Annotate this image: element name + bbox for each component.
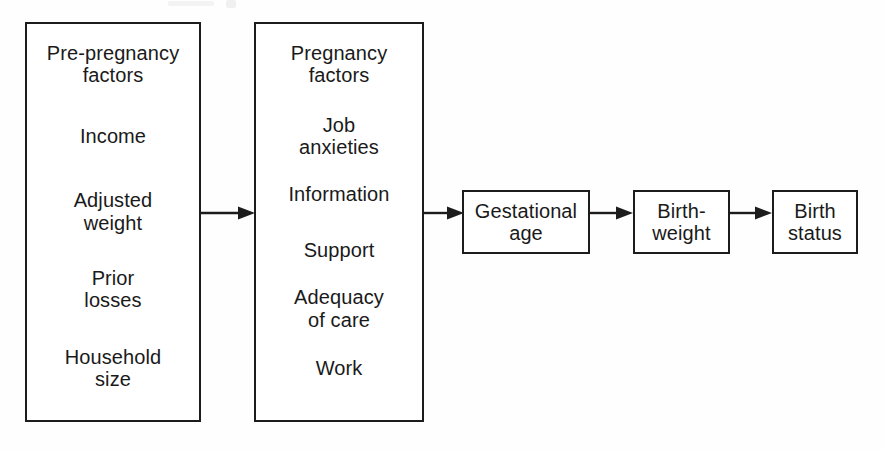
- node-gestational-age[interactable]: Gestational age: [462, 190, 590, 254]
- node-pre-pregnancy-factors[interactable]: Pre-pregnancy factors Income Adjusted we…: [25, 22, 201, 422]
- node-label-gestational-age: Gestational age: [475, 200, 577, 245]
- node-label-birth-status: Birth status: [788, 200, 842, 245]
- node-entry-job-anxieties: Job anxieties: [256, 114, 422, 159]
- arrow-birth-weight-to-birth-status: [730, 205, 773, 221]
- node-entry-prior-losses: Prior losses: [27, 267, 199, 312]
- diagram-canvas: Pre-pregnancy factors Income Adjusted we…: [0, 0, 884, 450]
- node-birth-weight[interactable]: Birth- weight: [633, 190, 730, 254]
- arrow-pre-pregnancy-to-pregnancy: [200, 205, 256, 221]
- node-birth-status[interactable]: Birth status: [772, 190, 858, 254]
- scan-artifact: [168, 1, 214, 6]
- node-pregnancy-factors[interactable]: Pregnancy factors Job anxieties Informat…: [254, 22, 424, 422]
- node-entry-heading: Pre-pregnancy factors: [27, 42, 199, 87]
- node-label-birth-weight: Birth- weight: [652, 200, 710, 245]
- arrow-gestational-age-to-birth-weight: [590, 205, 634, 221]
- arrow-pregnancy-to-gestational-age: [423, 205, 465, 221]
- node-entry-adjusted-weight: Adjusted weight: [27, 189, 199, 234]
- node-entry-heading: Pregnancy factors: [256, 42, 422, 87]
- node-entry-income: Income: [27, 125, 199, 147]
- node-entry-information: Information: [256, 183, 422, 205]
- node-entry-household-size: Household size: [27, 346, 199, 391]
- node-entry-work: Work: [256, 357, 422, 379]
- node-entry-adequacy-of-care: Adequacy of care: [256, 286, 422, 331]
- node-entry-support: Support: [256, 239, 422, 261]
- scan-artifact: [226, 0, 236, 8]
